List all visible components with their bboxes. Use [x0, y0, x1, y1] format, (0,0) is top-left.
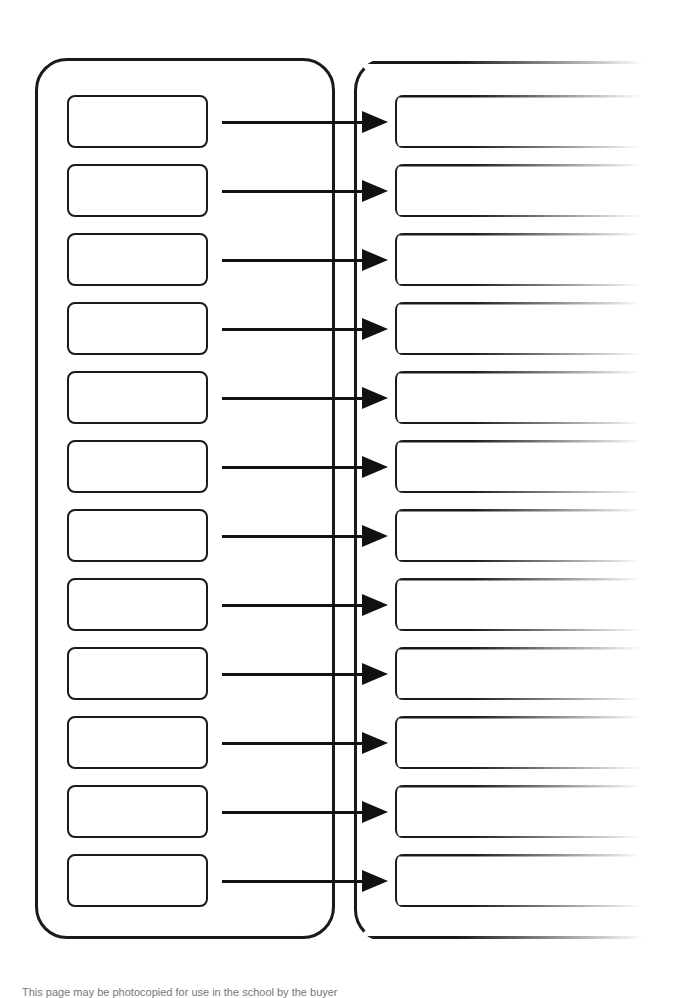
arrow-shaft [222, 742, 368, 745]
pair-row [0, 785, 676, 839]
arrow-head [362, 870, 388, 892]
arrow-right-icon [222, 328, 388, 331]
left-answer-box[interactable] [67, 164, 208, 217]
pair-row [0, 233, 676, 287]
arrow-head [362, 318, 388, 340]
arrow-right-icon [222, 121, 388, 124]
right-answer-box[interactable] [395, 371, 676, 424]
arrow-shaft [222, 328, 368, 331]
arrow-right-icon [222, 259, 388, 262]
left-answer-box[interactable] [67, 509, 208, 562]
arrow-shaft [222, 259, 368, 262]
arrow-shaft [222, 673, 368, 676]
arrow-shaft [222, 535, 368, 538]
arrow-head [362, 594, 388, 616]
right-answer-box[interactable] [395, 647, 676, 700]
right-answer-box[interactable] [395, 578, 676, 631]
arrow-head [362, 249, 388, 271]
right-answer-box[interactable] [395, 302, 676, 355]
left-answer-box[interactable] [67, 233, 208, 286]
pair-row [0, 647, 676, 701]
right-answer-box[interactable] [395, 233, 676, 286]
arrow-shaft [222, 880, 368, 883]
pair-row [0, 716, 676, 770]
pair-row [0, 95, 676, 149]
left-answer-box[interactable] [67, 647, 208, 700]
arrow-right-icon [222, 190, 388, 193]
left-answer-box[interactable] [67, 302, 208, 355]
arrow-head [362, 180, 388, 202]
right-answer-box[interactable] [395, 95, 676, 148]
left-answer-box[interactable] [67, 371, 208, 424]
arrow-right-icon [222, 397, 388, 400]
left-answer-box[interactable] [67, 785, 208, 838]
left-answer-box[interactable] [67, 578, 208, 631]
arrow-head [362, 525, 388, 547]
arrow-right-icon [222, 811, 388, 814]
arrow-head [362, 732, 388, 754]
arrow-right-icon [222, 535, 388, 538]
pair-row [0, 164, 676, 218]
left-answer-box[interactable] [67, 95, 208, 148]
arrow-head [362, 387, 388, 409]
arrow-right-icon [222, 742, 388, 745]
right-answer-box[interactable] [395, 854, 676, 907]
arrow-head [362, 801, 388, 823]
arrow-head [362, 111, 388, 133]
right-answer-box[interactable] [395, 716, 676, 769]
pair-row [0, 578, 676, 632]
pair-row [0, 302, 676, 356]
pair-row [0, 854, 676, 908]
pair-row [0, 440, 676, 494]
right-answer-box[interactable] [395, 509, 676, 562]
arrow-right-icon [222, 604, 388, 607]
left-answer-box[interactable] [67, 854, 208, 907]
right-answer-box[interactable] [395, 785, 676, 838]
left-answer-box[interactable] [67, 440, 208, 493]
arrow-right-icon [222, 466, 388, 469]
arrow-head [362, 663, 388, 685]
arrow-shaft [222, 397, 368, 400]
right-answer-box[interactable] [395, 440, 676, 493]
footer-note: This page may be photocopied for use in … [22, 986, 338, 998]
arrow-shaft [222, 466, 368, 469]
right-answer-box[interactable] [395, 164, 676, 217]
arrow-head [362, 456, 388, 478]
pair-row [0, 371, 676, 425]
arrow-right-icon [222, 673, 388, 676]
arrow-right-icon [222, 880, 388, 883]
arrow-shaft [222, 121, 368, 124]
pair-row [0, 509, 676, 563]
arrow-shaft [222, 811, 368, 814]
arrow-shaft [222, 604, 368, 607]
arrow-shaft [222, 190, 368, 193]
left-answer-box[interactable] [67, 716, 208, 769]
